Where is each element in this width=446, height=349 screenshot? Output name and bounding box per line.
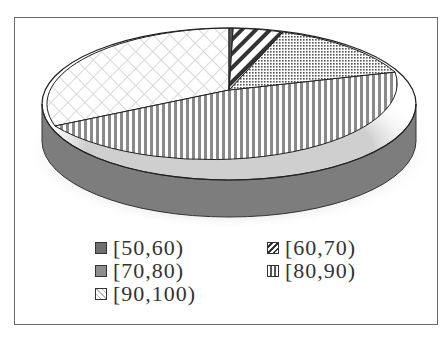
swatch-diagonal-icon <box>267 242 279 254</box>
legend-label: [80,90) <box>285 259 356 282</box>
swatch-crosshatch-icon <box>95 288 107 300</box>
swatch-vertical-stripes-icon <box>267 265 279 277</box>
legend-label: [60,70) <box>285 236 356 259</box>
pie-chart <box>0 0 446 349</box>
legend-label: [90,100) <box>113 282 196 305</box>
swatch-dots-icon <box>95 265 107 277</box>
legend-item-90-100[interactable]: [90,100) <box>95 282 196 305</box>
legend-label: [70,80) <box>113 259 184 282</box>
legend-item-70-80[interactable]: [70,80) <box>95 259 184 282</box>
legend-item-60-70[interactable]: [60,70) <box>267 236 356 259</box>
swatch-solid-dark-icon <box>95 242 107 254</box>
legend-label: [50,60) <box>113 236 184 259</box>
legend-item-50-60[interactable]: [50,60) <box>95 236 184 259</box>
legend-item-80-90[interactable]: [80,90) <box>267 259 356 282</box>
